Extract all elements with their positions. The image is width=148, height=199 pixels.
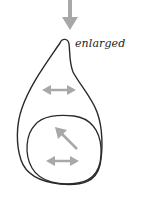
diagonal-arrow-icon xyxy=(55,127,77,149)
inner-body-outline xyxy=(27,115,101,184)
enlarged-label: enlarged xyxy=(75,37,125,50)
horizontal-double-arrow-lower-icon xyxy=(46,156,79,166)
down-arrow-icon xyxy=(62,0,78,30)
enlargement-diagram xyxy=(0,0,148,199)
horizontal-double-arrow-icon xyxy=(42,85,76,95)
